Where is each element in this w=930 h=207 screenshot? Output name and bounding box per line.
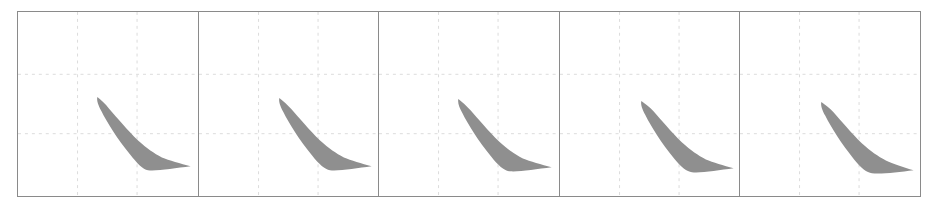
crescent-shape bbox=[821, 102, 914, 173]
crescent-shape bbox=[279, 98, 372, 170]
panel-1-canvas bbox=[18, 12, 198, 196]
panel-3 bbox=[378, 12, 559, 196]
panel-5-canvas bbox=[740, 12, 920, 196]
panel-2-canvas bbox=[199, 12, 379, 196]
panel-5 bbox=[739, 12, 920, 196]
crescent-shape bbox=[641, 101, 734, 172]
panel-2 bbox=[198, 12, 379, 196]
panel-1 bbox=[18, 12, 198, 196]
panel-4-canvas bbox=[560, 12, 740, 196]
crescent-shape bbox=[458, 99, 552, 171]
figure-panel-strip bbox=[17, 11, 921, 197]
panel-3-canvas bbox=[379, 12, 559, 196]
panel-4 bbox=[559, 12, 740, 196]
